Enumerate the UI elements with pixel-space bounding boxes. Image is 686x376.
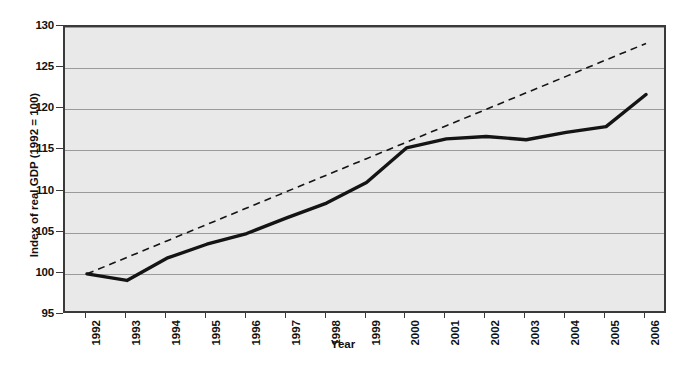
y-tick-mark-125 [56,66,63,67]
x-tick-mark-1992 [85,313,86,318]
x-tick-mark-2002 [484,313,485,318]
y-tick-label-115: 115 [36,142,54,154]
y-tick-mark-115 [56,148,63,149]
x-tick-mark-1999 [365,313,366,318]
x-tick-mark-1993 [125,313,126,318]
x-tick-mark-2003 [524,313,525,318]
x-tick-mark-2005 [604,313,605,318]
y-tick-label-125: 125 [35,60,54,72]
y-tick-label-105: 105 [35,225,54,237]
x-tick-mark-2001 [444,313,445,318]
y-tick-mark-110 [56,190,63,191]
x-tick-mark-1998 [325,313,326,318]
y-tick-mark-100 [56,272,63,273]
y-tick-mark-95 [56,313,63,314]
y-tick-label-110: 110 [36,184,54,196]
plot-area [63,25,666,313]
y-tick-label-100: 100 [35,266,54,278]
y-tick-label-95: 95 [42,307,54,319]
x-tick-mark-2000 [404,313,405,318]
y-tick-label-130: 130 [35,19,54,31]
y-tick-mark-120 [56,107,63,108]
x-tick-mark-1997 [285,313,286,318]
x-axis-title: Year [0,338,686,350]
x-tick-mark-1995 [205,313,206,318]
y-tick-mark-130 [56,25,63,26]
x-tick-mark-1996 [245,313,246,318]
x-tick-mark-2006 [644,313,645,318]
y-tick-mark-105 [56,231,63,232]
real-gdp-line [87,94,646,280]
chart-figure: Index of real GDP (1992 = 100) 951001051… [0,0,686,376]
series-layer [65,27,664,311]
x-tick-mark-1994 [165,313,166,318]
plot-inner [65,27,664,311]
trend-line-dashed [87,43,646,273]
y-axis: 95100105110115120125130 [0,0,63,376]
x-tick-mark-2004 [564,313,565,318]
y-tick-label-120: 120 [35,101,54,113]
